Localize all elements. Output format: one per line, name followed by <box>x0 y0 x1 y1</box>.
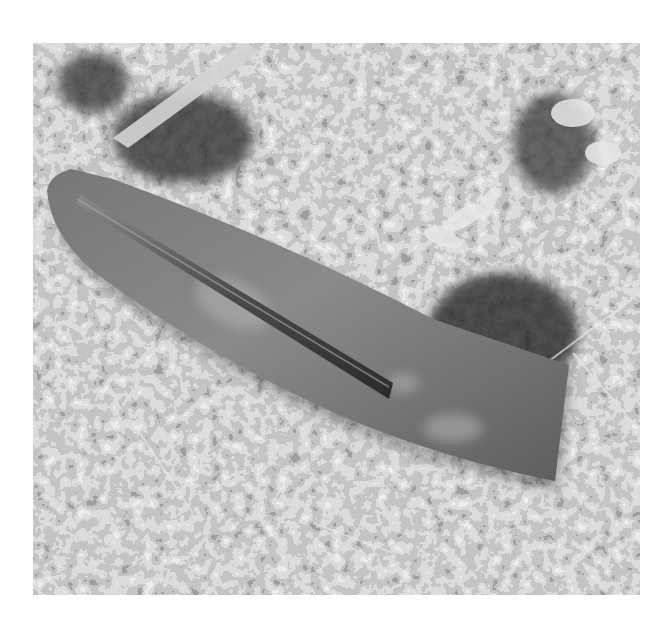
caption <box>0 612 666 626</box>
photograph <box>33 43 640 595</box>
forest-floor-scene <box>33 43 640 595</box>
